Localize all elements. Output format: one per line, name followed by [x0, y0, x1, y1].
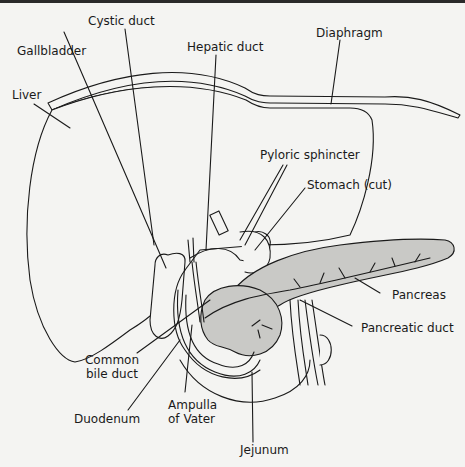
anatomy-illustration — [0, 0, 465, 467]
label-pancreatic-duct: Pancreatic duct — [361, 321, 454, 335]
label-pyloric-sphincter: Pyloric sphincter — [260, 148, 360, 162]
label-stomach-cut: Stomach (cut) — [307, 178, 392, 192]
label-duodenum: Duodenum — [74, 412, 140, 426]
label-ampulla-of-vater: Ampulla of Vater — [168, 398, 228, 426]
pancreas-head-shape — [201, 286, 282, 356]
label-liver: Liver — [12, 88, 41, 102]
label-pancreas: Pancreas — [392, 288, 446, 302]
label-common-bile-duct-line1: Common — [82, 353, 142, 367]
label-cystic-duct: Cystic duct — [88, 14, 155, 28]
label-diaphragm: Diaphragm — [316, 26, 383, 40]
label-ampulla-line1: Ampulla — [168, 398, 228, 412]
label-jejunum: Jejunum — [240, 443, 289, 457]
label-hepatic-duct: Hepatic duct — [187, 40, 263, 54]
label-common-bile-duct-line2: bile duct — [82, 367, 142, 381]
label-gallbladder: Gallbladder — [17, 44, 86, 58]
label-common-bile-duct: Common bile duct — [82, 353, 142, 381]
label-ampulla-line2: of Vater — [168, 412, 228, 426]
